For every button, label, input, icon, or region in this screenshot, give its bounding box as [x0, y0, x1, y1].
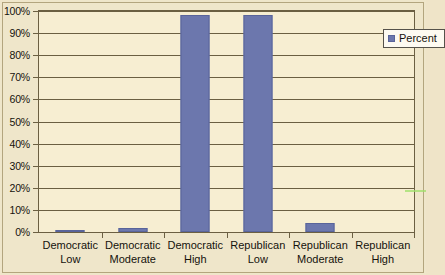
y-axis-tick-label: 40% [10, 138, 30, 150]
x-axis-label-line: Democratic [102, 239, 165, 253]
y-axis-tick [33, 144, 38, 145]
bar[interactable] [306, 223, 335, 232]
x-axis-label-line: Republican [352, 239, 415, 253]
y-axis-tick-label: 70% [10, 71, 30, 83]
x-axis-label-line: Low [227, 253, 290, 267]
y-axis-tick [33, 55, 38, 56]
x-axis-tick [352, 233, 353, 238]
x-axis-label-line: High [164, 253, 227, 267]
y-axis-tick [33, 188, 38, 189]
x-axis-label-line: Moderate [289, 253, 352, 267]
y-axis-tick [33, 232, 38, 233]
x-axis-label-line: Democratic [39, 239, 102, 253]
x-axis-tick [164, 233, 165, 238]
x-axis-category-label: DemocraticModerate [102, 239, 165, 266]
y-axis-tick-label: 20% [10, 182, 30, 194]
x-axis-tick [289, 233, 290, 238]
x-axis-category-label: RepublicanModerate [289, 239, 352, 266]
x-axis-label-line: Moderate [102, 253, 165, 267]
x-axis-tick [102, 233, 103, 238]
x-axis-tick [227, 233, 228, 238]
y-axis-tick [33, 99, 38, 100]
x-axis-label-line: Low [39, 253, 102, 267]
y-axis-tick [33, 11, 38, 12]
y-axis-tick-label: 0% [15, 226, 30, 238]
y-axis-tick-label: 60% [10, 93, 30, 105]
bar-group [39, 11, 102, 232]
x-axis-label-line: Republican [289, 239, 352, 253]
y-axis-tick-label: 30% [10, 160, 30, 172]
y-axis-tick-label: 50% [10, 116, 30, 128]
bars-layer [39, 11, 414, 232]
x-axis-label-line: Democratic [164, 239, 227, 253]
y-axis-tick-label: 80% [10, 49, 30, 61]
y-axis-tick-label: 90% [10, 27, 30, 39]
y-axis-tick [33, 122, 38, 123]
y-axis-tick [33, 210, 38, 211]
bar[interactable] [118, 228, 147, 232]
x-axis-label-line: Republican [227, 239, 290, 253]
y-axis-tick-label: 10% [10, 204, 30, 216]
x-axis-category-label: DemocraticLow [39, 239, 102, 266]
y-axis-tick [33, 77, 38, 78]
square-marker-icon [388, 35, 395, 42]
bar[interactable] [243, 15, 272, 232]
plot-wrapper: 100%90%80%70%60%50%40%30%20%10%0% Percen… [38, 10, 415, 233]
bar-group [227, 11, 290, 232]
bar-group [164, 11, 227, 232]
bar[interactable] [56, 230, 85, 232]
x-axis-category-label: RepublicanHigh [352, 239, 415, 266]
bar-group [289, 11, 352, 232]
scan-artifact [405, 190, 426, 192]
x-axis-tick [414, 233, 415, 238]
chart-legend[interactable]: Percent [383, 29, 445, 48]
y-axis-tick [33, 166, 38, 167]
legend-entry-label: Percent [399, 32, 437, 45]
y-axis-tick-label: 100% [4, 5, 30, 17]
x-axis-category-label: DemocraticHigh [164, 239, 227, 266]
y-axis-tick [33, 33, 38, 34]
x-axis-category-label: RepublicanLow [227, 239, 290, 266]
bar[interactable] [181, 15, 210, 232]
bar-group [102, 11, 165, 232]
x-axis-label-line: High [352, 253, 415, 267]
